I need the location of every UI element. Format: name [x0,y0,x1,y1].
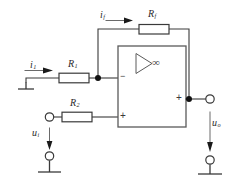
resistor-r1-body [59,73,89,83]
label-resistor-r1: R1 [68,59,78,70]
voltage-ui-arrow [47,128,53,150]
label-resistor-r2: R2 [70,98,80,109]
label-current-i1: i1 [30,60,36,71]
junction-dot-inverting-node [95,75,101,81]
current-if-arrow [106,18,133,24]
output-terminal-top[interactable] [206,95,214,103]
junction-dot-output-node [186,96,192,102]
resistor-r2-body [62,112,92,122]
label-voltage-uo: uo [212,118,220,129]
label-current-if: if [100,10,105,21]
output-terminal-bottom[interactable] [206,156,214,164]
opamp-output-sign: + [176,93,182,103]
ground-left [18,82,34,89]
label-voltage-ui: ui [32,128,39,139]
opamp-inverting-sign: − [120,72,125,81]
ground-output [198,165,222,175]
opamp-noninverting-sign: + [120,111,126,121]
opamp-gain-infinity-symbol: ∞ [152,57,160,68]
label-resistor-rf: Rf [148,9,156,20]
resistor-rf-body [139,25,169,35]
input-terminal-top[interactable] [45,113,53,121]
ground-input [38,161,61,173]
input-terminal-bottom[interactable] [45,152,53,160]
circuit-schematic-canvas [0,0,230,190]
wire-input-left [26,78,59,82]
circuit-diagram: if Rf i1 R1 R2 ui uo − + + ∞ [0,0,230,190]
